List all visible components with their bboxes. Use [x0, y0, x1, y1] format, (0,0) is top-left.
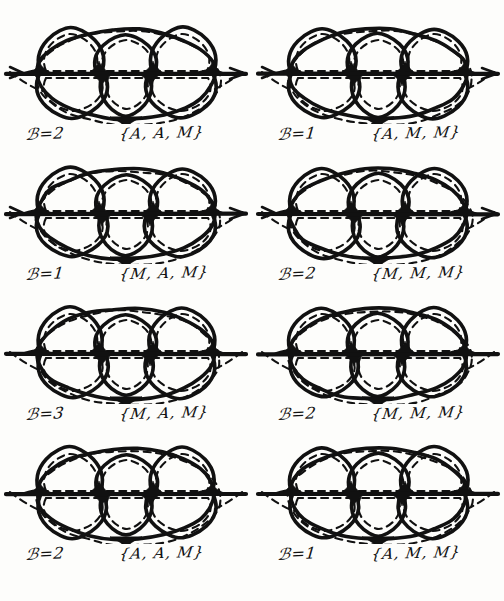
- b-value-text: ℬ=2: [277, 403, 317, 424]
- b-value-text: ℬ=1: [25, 263, 65, 284]
- multiset-label: {A, A, M}: [120, 124, 204, 142]
- multiset-label: {M, A, M}: [120, 404, 209, 422]
- b-value-text: ℬ=1: [277, 543, 317, 564]
- b-value-label: ℬ=2: [278, 404, 316, 423]
- b-value-label: ℬ=1: [26, 264, 64, 283]
- bubble-diagram-fig-3: [0, 152, 252, 264]
- b-value-text: ℬ=3: [25, 403, 65, 424]
- diagram-cell-fig-8: ℬ=1{A, M, M}: [252, 432, 504, 582]
- bubble-diagram-fig-2: [252, 12, 504, 124]
- bubble-diagram-fig-8: [252, 432, 504, 544]
- bubble-diagram-fig-6: [252, 292, 504, 404]
- bubble-diagram-fig-7: [0, 432, 252, 544]
- b-value-text: ℬ=2: [277, 263, 317, 284]
- multiset-label: {A, M, M}: [372, 124, 461, 142]
- b-value-label: ℬ=2: [26, 544, 64, 563]
- diagram-cell-fig-1: ℬ=2{A, A, M}: [0, 12, 252, 162]
- multiset-text: {A, M, M}: [370, 543, 462, 563]
- b-value-label: ℬ=2: [26, 124, 64, 143]
- b-value-text: ℬ=2: [25, 123, 65, 144]
- bubble-diagram-fig-1: [0, 12, 252, 124]
- b-value-label: ℬ=3: [26, 404, 64, 423]
- bubble-diagram-fig-4: [252, 152, 504, 264]
- diagram-cell-fig-6: ℬ=2{M, M, M}: [252, 292, 504, 442]
- diagram-cell-fig-5: ℬ=3{M, A, M}: [0, 292, 252, 442]
- multiset-label: {M, M, M}: [372, 404, 465, 422]
- multiset-label: {M, M, M}: [372, 264, 465, 282]
- diagram-cell-fig-4: ℬ=2{M, M, M}: [252, 152, 504, 302]
- diagram-cell-fig-3: ℬ=1{M, A, M}: [0, 152, 252, 302]
- b-value-label: ℬ=1: [278, 544, 316, 563]
- diagram-cell-fig-7: ℬ=2{A, A, M}: [0, 432, 252, 582]
- diagram-sheet: ℬ=2{A, A, M}ℬ=1{A, M, M}ℬ=1{M, A, M}ℬ=2{…: [0, 0, 504, 601]
- multiset-text: {M, A, M}: [118, 263, 210, 283]
- multiset-text: {M, A, M}: [118, 403, 210, 423]
- b-value-label: ℬ=1: [278, 124, 316, 143]
- multiset-label: {A, A, M}: [120, 544, 204, 562]
- multiset-label: {M, A, M}: [120, 264, 209, 282]
- multiset-label: {A, M, M}: [372, 544, 461, 562]
- b-value-text: ℬ=1: [277, 123, 317, 144]
- diagram-cell-fig-2: ℬ=1{A, M, M}: [252, 12, 504, 162]
- b-value-text: ℬ=2: [25, 543, 65, 564]
- b-value-label: ℬ=2: [278, 264, 316, 283]
- multiset-text: {A, M, M}: [370, 123, 462, 143]
- multiset-text: {M, M, M}: [370, 403, 466, 423]
- multiset-text: {M, M, M}: [370, 263, 466, 283]
- multiset-text: {A, A, M}: [118, 123, 205, 143]
- bubble-diagram-fig-5: [0, 292, 252, 404]
- multiset-text: {A, A, M}: [118, 543, 205, 563]
